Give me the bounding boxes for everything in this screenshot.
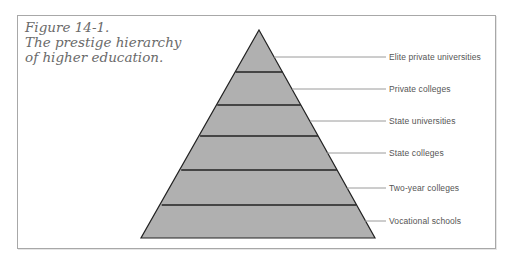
level-label-state-colleges: State colleges (389, 148, 444, 158)
level-label-two-year-colleges: Two-year colleges (389, 183, 459, 193)
pyramid-shape (141, 30, 375, 238)
level-label-private-colleges: Private colleges (389, 84, 451, 94)
level-label-elite-private-universities: Elite private universities (389, 52, 481, 62)
level-label-vocational-schools: Vocational schools (389, 216, 461, 226)
level-label-state-universities: State universities (389, 116, 456, 126)
